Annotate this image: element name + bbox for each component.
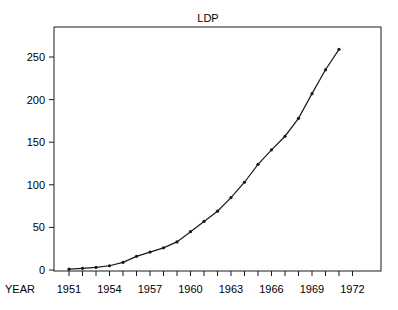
y-tick-label: 50 — [33, 221, 45, 233]
data-point — [162, 246, 165, 249]
y-tick-label: 0 — [39, 264, 45, 276]
data-point — [283, 135, 286, 138]
data-point — [270, 148, 273, 151]
x-tick-label: 1954 — [97, 283, 121, 295]
data-point — [81, 267, 84, 270]
data-point — [135, 255, 138, 258]
data-point — [310, 92, 313, 95]
y-tick-label: 250 — [27, 51, 45, 63]
data-point — [256, 163, 259, 166]
x-axis-label: YEAR — [5, 283, 35, 295]
x-tick-label: 1963 — [219, 283, 243, 295]
data-point — [229, 196, 232, 199]
y-axis: 050100150200250 — [27, 51, 54, 276]
data-point — [175, 240, 178, 243]
data-point — [108, 264, 111, 267]
x-axis: 19511954195719601963196619691972 — [57, 271, 365, 295]
series-line — [69, 49, 339, 269]
chart-title: LDP — [197, 12, 218, 24]
x-tick-label: 1972 — [340, 283, 364, 295]
x-tick-label: 1966 — [259, 283, 283, 295]
x-tick-label: 1960 — [178, 283, 202, 295]
data-point — [297, 117, 300, 120]
data-point — [121, 261, 124, 264]
x-tick-label: 1969 — [300, 283, 324, 295]
data-point — [216, 210, 219, 213]
data-point — [243, 181, 246, 184]
y-tick-label: 100 — [27, 179, 45, 191]
plot-frame — [54, 27, 381, 271]
data-point — [324, 68, 327, 71]
x-tick-label: 1957 — [138, 283, 162, 295]
series-ldp — [67, 48, 340, 271]
data-point — [67, 268, 70, 271]
y-tick-label: 150 — [27, 136, 45, 148]
data-point — [202, 220, 205, 223]
data-point — [337, 48, 340, 51]
y-tick-label: 200 — [27, 94, 45, 106]
data-point — [189, 230, 192, 233]
data-point — [148, 251, 151, 254]
x-tick-label: 1951 — [57, 283, 81, 295]
line-chart: LDP 050100150200250 19511954195719601963… — [0, 0, 398, 310]
data-point — [94, 266, 97, 269]
